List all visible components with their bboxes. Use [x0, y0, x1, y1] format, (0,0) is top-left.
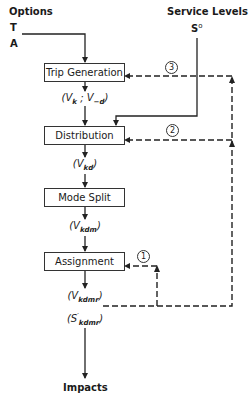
trip-generation-box: Trip Generation [44, 63, 125, 82]
flow-trip-gen-output: (Vk ; V−d) [60, 92, 110, 106]
distribution-box: Distribution [44, 126, 125, 145]
service-levels-title: Service Levels [167, 6, 248, 17]
feedback-loop-1-marker: 1 [137, 250, 150, 263]
flow-distribution-output: (Vkd) [65, 158, 105, 172]
service-levels-symbol: So [191, 22, 203, 34]
impacts-label: Impacts [63, 382, 108, 393]
option-a: A [10, 38, 18, 49]
flow-assignment-service: (S′kdmr) [60, 312, 110, 327]
options-title: Options [9, 6, 53, 17]
feedback-loop-3-marker: 3 [165, 61, 178, 74]
connector-lines [0, 0, 251, 400]
flow-assignment-volume: (Vkdmr) [60, 290, 110, 304]
assignment-box: Assignment [44, 252, 125, 271]
option-t: T [10, 22, 17, 33]
feedback-loop-2-marker: 2 [166, 124, 179, 137]
mode-split-box: Mode Split [44, 188, 125, 207]
flow-mode-split-output: (Vkdm) [62, 220, 108, 234]
